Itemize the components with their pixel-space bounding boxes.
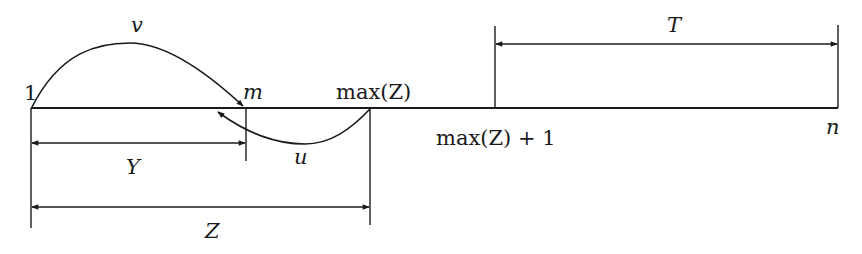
label-maxZ: max(Z) (336, 80, 411, 104)
label-u: u (294, 145, 308, 169)
interval-diagram: 1 m max(Z) max(Z) + 1 n v u Y Z T (0, 0, 862, 254)
label-m: m (243, 80, 263, 104)
label-maxZ-plus-1: max(Z) + 1 (436, 126, 556, 150)
label-T: T (667, 13, 683, 37)
arc-v (31, 43, 243, 109)
label-start: 1 (24, 81, 37, 105)
arc-u (218, 109, 370, 144)
label-v: v (131, 13, 143, 37)
diagram-canvas: 1 m max(Z) max(Z) + 1 n v u Y Z T (0, 0, 862, 254)
label-Y: Y (126, 155, 142, 179)
label-end: n (826, 115, 840, 139)
label-Z: Z (204, 219, 220, 243)
